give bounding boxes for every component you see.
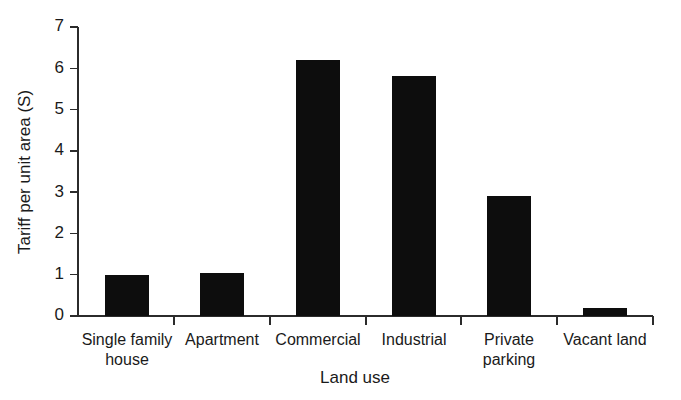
cat-label-private-parking-line2: parking: [483, 351, 535, 368]
y-tick-label-5: 5: [55, 99, 64, 118]
bar-chart-figure: 0 1 2 3 4 5 6 7: [0, 0, 681, 400]
cat-label-private-parking-line1: Private: [484, 331, 534, 348]
cat-label-vacant-land: Vacant land: [563, 331, 646, 348]
cat-label-industrial: Industrial: [382, 331, 447, 348]
y-tick-label-2: 2: [55, 223, 64, 242]
cat-label-commercial: Commercial: [275, 331, 360, 348]
y-axis-title: Tariff per unit area (S): [15, 90, 34, 254]
bar-private-parking: [487, 196, 531, 316]
y-tick-label-3: 3: [55, 182, 64, 201]
x-axis-title: Land use: [320, 368, 390, 387]
bar-industrial: [392, 76, 436, 316]
chart-canvas: 0 1 2 3 4 5 6 7: [0, 0, 681, 400]
cat-label-single-family-house-line1: Single family: [82, 331, 173, 348]
bar-apartment: [200, 273, 244, 316]
cat-label-apartment: Apartment: [185, 331, 259, 348]
bar-vacant-land: [583, 308, 627, 316]
y-tick-label-6: 6: [55, 58, 64, 77]
y-tick-label-0: 0: [55, 305, 64, 324]
y-tick-label-1: 1: [55, 264, 64, 283]
y-tick-label-4: 4: [55, 140, 64, 159]
cat-label-single-family-house-line2: house: [105, 351, 149, 368]
bar-single-family-house: [105, 275, 149, 316]
y-tick-label-7: 7: [55, 16, 64, 35]
bar-commercial: [296, 60, 340, 316]
